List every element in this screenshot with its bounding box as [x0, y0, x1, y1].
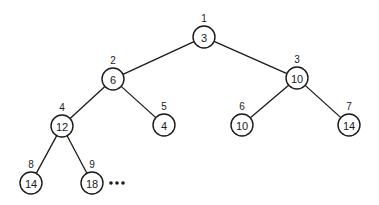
- node-value: 3: [201, 32, 207, 44]
- edge-4-8: [36, 136, 56, 174]
- tree-node-4: 124: [51, 102, 73, 137]
- node-index-label: 3: [294, 54, 300, 65]
- node-index-label: 9: [89, 159, 95, 170]
- tree-node-5: 45: [153, 101, 175, 136]
- node-index-label: 1: [201, 13, 207, 24]
- tree-node-8: 148: [20, 159, 42, 194]
- node-value: 10: [291, 73, 303, 85]
- node-value: 4: [161, 120, 167, 132]
- edge-2-5: [121, 86, 156, 117]
- tree-nodes: 316210312445106147148189: [20, 13, 360, 194]
- edge-2-4: [70, 86, 105, 118]
- node-index-label: 7: [346, 101, 352, 112]
- ellipsis-dot: [121, 181, 125, 185]
- node-value: 6: [110, 74, 116, 86]
- edge-3-7: [305, 85, 341, 117]
- tree-node-7: 147: [338, 101, 360, 136]
- edge-1-3: [214, 41, 287, 73]
- edge-4-9: [67, 136, 87, 174]
- ellipsis-dot: [109, 181, 113, 185]
- node-value: 18: [86, 178, 98, 190]
- node-value: 14: [25, 178, 37, 190]
- heap-tree-diagram: 316210312445106147148189: [0, 0, 379, 205]
- edge-1-2: [123, 42, 194, 75]
- node-index-label: 8: [28, 159, 34, 170]
- edge-3-6: [250, 85, 288, 118]
- node-value: 14: [343, 120, 355, 132]
- continuation-ellipsis: [109, 181, 125, 185]
- tree-node-2: 62: [102, 55, 124, 90]
- node-index-label: 4: [59, 102, 65, 113]
- tree-node-3: 103: [286, 54, 308, 89]
- node-index-label: 2: [110, 55, 116, 66]
- tree-node-9: 189: [81, 159, 103, 194]
- node-value: 10: [236, 120, 248, 132]
- tree-node-1: 31: [193, 13, 215, 48]
- node-index-label: 6: [239, 101, 245, 112]
- node-value: 12: [56, 121, 68, 133]
- tree-node-6: 106: [231, 101, 253, 136]
- ellipsis-dot: [115, 181, 119, 185]
- node-index-label: 5: [161, 101, 167, 112]
